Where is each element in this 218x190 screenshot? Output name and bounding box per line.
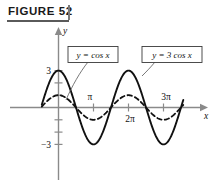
x-axis-label: x [203,111,209,121]
x-tick-label-2pi: 2π [125,114,135,124]
leader-line-cos-x [66,62,88,100]
label-text-cos-x: y = cos x [76,50,110,60]
y-tick-label-3: 3 [46,66,51,76]
y-axis-label: y [62,26,68,36]
y-tick-label-neg3: −3 [41,140,51,150]
y-axis-arrowhead [55,27,62,35]
figure-container: FIGURE 52 x y π 2π 3π 3 −3 [0,0,218,190]
leader-line-3cos-x [142,62,155,76]
label-text-3cos-x: y = 3 cos x [151,50,192,60]
x-tick-label-3pi: 3π [161,92,171,102]
x-tick-label-pi: π [88,92,93,102]
label-box-3cos-x[interactable]: y = 3 cos x [142,47,202,63]
label-box-cos-x[interactable]: y = cos x [68,47,118,63]
cosine-graph-svg: x y π 2π 3π 3 −3 y = cos x [0,0,218,190]
